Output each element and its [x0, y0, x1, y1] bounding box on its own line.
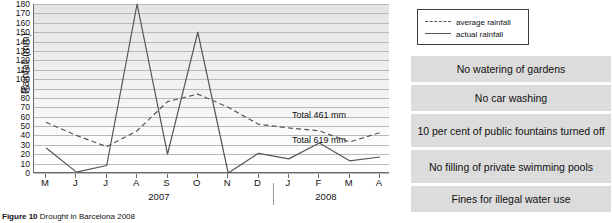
figure-caption-text: Drought in Barcelona 2008 [40, 212, 135, 221]
x-tick-label: M [41, 177, 49, 188]
y-tick-label: 70 [4, 103, 30, 111]
restrictions-list: No watering of gardens No car washing 10… [411, 56, 611, 215]
y-tick-label: 130 [4, 47, 30, 55]
x-tick-label: S [163, 177, 169, 188]
x-axis-tick-labels: MJJASONDJFMA [33, 177, 389, 190]
y-tick-label: 150 [4, 28, 30, 36]
list-item: No car washing [411, 85, 611, 111]
y-tick-label: 110 [4, 66, 30, 74]
figure-number: Figure 10 [2, 212, 38, 221]
y-tick-label: 140 [4, 38, 30, 46]
chart-legend: average rainfall actual rainfall [417, 9, 529, 45]
year-label-2007: 2007 [148, 191, 169, 202]
x-tick-label: A [376, 177, 382, 188]
plot-wrapper [33, 4, 389, 173]
legend-item-average: average rainfall [425, 16, 511, 28]
x-tick-label: O [193, 177, 200, 188]
total-actual-annotation: Total 619 mm [292, 135, 346, 145]
year-group-labels: 2007 2008 [33, 191, 389, 205]
list-item: No filling of private swimming pools [411, 150, 611, 183]
x-tick-label: J [73, 177, 78, 188]
legend-label-actual: actual rainfall [456, 30, 503, 39]
solid-line-icon [425, 31, 451, 37]
y-tick-label: 80 [4, 94, 30, 102]
x-tick-label: J [286, 177, 291, 188]
actual-rainfall-line [46, 4, 380, 173]
year-label-2008: 2008 [315, 191, 336, 202]
y-tick-label: 100 [4, 75, 30, 83]
y-tick-label: 170 [4, 9, 30, 17]
legend-item-actual: actual rainfall [425, 28, 503, 40]
list-item: Fines for illegal water use [411, 186, 611, 212]
legend-label-average: average rainfall [456, 18, 511, 27]
y-axis-tick-labels: 0102030405060708090100110120130140150160… [0, 4, 30, 173]
x-tick-label: F [315, 177, 321, 188]
y-tick-label: 10 [4, 160, 30, 168]
x-tick-label: A [133, 177, 139, 188]
y-tick-label: 20 [4, 150, 30, 158]
year-divider [273, 183, 274, 205]
y-tick-label: 180 [4, 0, 30, 8]
series-lines [34, 4, 390, 173]
rainfall-chart-panel: Rainfall (mm) 01020304050607080901001101… [0, 0, 410, 223]
y-tick-label: 0 [4, 169, 30, 177]
list-item: No watering of gardens [411, 56, 611, 82]
y-tick-label: 160 [4, 19, 30, 27]
list-item: 10 per cent of public fountains turned o… [411, 114, 611, 147]
y-tick-label: 30 [4, 141, 30, 149]
x-tick-label: M [345, 177, 353, 188]
plot-area [33, 4, 389, 173]
dashed-line-icon [425, 19, 451, 25]
x-tick-label: D [254, 177, 261, 188]
side-panel: average rainfall actual rainfall No wate… [410, 0, 612, 223]
x-tick-label: N [224, 177, 231, 188]
y-tick-label: 60 [4, 113, 30, 121]
total-average-annotation: Total 461 mm [292, 110, 346, 120]
y-tick-label: 120 [4, 56, 30, 64]
y-tick-label: 50 [4, 122, 30, 130]
figure-caption: Figure 10 Drought in Barcelona 2008 [2, 212, 135, 221]
x-tick-label: J [103, 177, 108, 188]
y-tick-label: 40 [4, 131, 30, 139]
y-tick-label: 90 [4, 85, 30, 93]
